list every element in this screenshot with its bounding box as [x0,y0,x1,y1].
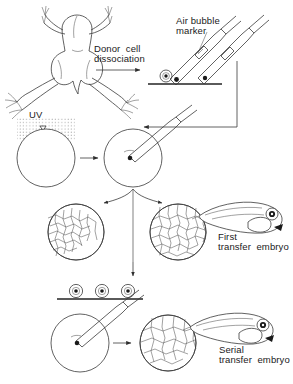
dish-cell [121,284,134,297]
blastula-serial [140,315,196,371]
label-first-transfer-embryo: First transfer embryo [218,232,289,253]
diagram-svg [0,0,293,384]
dish-cell [69,284,82,297]
label-donor-cell-dissociation: Donor cell dissociation [94,44,145,65]
blastula-full [150,204,206,260]
tadpole-serial [183,313,274,344]
uv-irradiated-egg [17,118,75,187]
blastula-partial [48,204,104,260]
label-serial-transfer-embryo: Serial transfer embryo [219,345,290,366]
label-uv: UV [29,110,42,120]
injected-egg [104,105,197,187]
arrow-branch-right [133,189,162,203]
arrow-branch-left [104,189,133,203]
diagram-canvas: Air bubble marker Donor cell dissociatio… [0,0,293,384]
dish-cell [95,284,108,297]
injected-egg-serial [51,290,144,372]
label-air-bubble-marker: Air bubble marker [176,16,220,37]
